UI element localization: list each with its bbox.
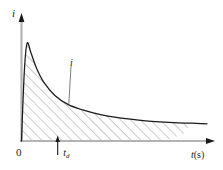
origin-label: 0 xyxy=(16,147,22,158)
marker-td-subscript: d xyxy=(66,152,70,160)
y-axis-arrowhead xyxy=(19,13,25,22)
plot-canvas xyxy=(0,0,223,170)
marker-td-label: td xyxy=(63,148,69,160)
figure-container: i t(s) 0 td i xyxy=(0,0,223,170)
curve-label: i xyxy=(70,58,73,68)
curve-callout-leader xyxy=(69,66,71,104)
y-axis-label: i xyxy=(12,8,15,19)
x-axis-arrowhead xyxy=(206,138,215,144)
x-axis-unit: (s) xyxy=(194,149,205,160)
area-under-curve-hatch xyxy=(18,28,188,143)
x-axis-label: t(s) xyxy=(191,150,204,160)
